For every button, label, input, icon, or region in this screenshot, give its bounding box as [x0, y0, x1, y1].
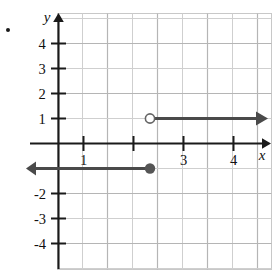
x-tick-label-1: 1 [80, 152, 87, 168]
x-tick-label-3: 3 [180, 152, 187, 168]
list-bullet-marker [6, 28, 10, 32]
coordinate-plane-svg: 4 3 2 1 -2 -3 -4 1 3 4 y x [0, 0, 277, 280]
plot-border [58, 14, 272, 270]
lower-ray-arrowhead [26, 162, 36, 176]
y-axis-label: y [42, 9, 51, 25]
y-tick-label-4: 4 [38, 36, 46, 52]
y-tick-label-neg2: -2 [34, 186, 46, 202]
graph-figure: 4 3 2 1 -2 -3 -4 1 3 4 y x [0, 0, 277, 280]
y-tick-label-1: 1 [38, 111, 45, 127]
y-tick-label-neg4: -4 [34, 236, 47, 252]
y-tick-label-3: 3 [38, 61, 45, 77]
x-tick-label-4: 4 [230, 152, 238, 168]
x-axis-label: x [258, 147, 266, 163]
closed-endpoint-dot [145, 163, 155, 173]
open-endpoint-circle [145, 114, 154, 123]
y-tick-label-neg3: -3 [34, 211, 46, 227]
y-tick-label-2: 2 [38, 86, 45, 102]
